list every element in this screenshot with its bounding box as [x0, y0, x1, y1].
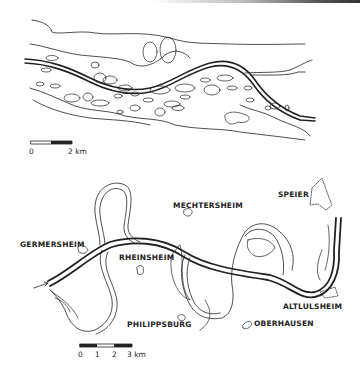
- place-label-oberhausen: OBERHAUSEN: [254, 319, 314, 328]
- place-label-germersheim: GERMERSHEIM: [20, 240, 85, 249]
- tributary-east: [245, 60, 312, 73]
- place-label-mechtersheim: MECHTERSHEIM: [173, 201, 243, 210]
- valley-boundary-north: [32, 20, 305, 44]
- meander-loop-2: [50, 250, 112, 331]
- meander-loop-1: [95, 183, 140, 245]
- bottom-scale-tick-0: 0: [78, 350, 83, 359]
- bottom-scale-tick-1: 1: [95, 350, 100, 359]
- place-label-speier: SPEIER: [278, 190, 309, 199]
- top-scale-end-label: 2 km: [68, 147, 87, 156]
- meander-loop-3: [181, 224, 280, 319]
- top-scale-start-label: 0: [29, 147, 34, 156]
- bottom-scale-tick-2: 2: [112, 350, 117, 359]
- figure-canvas: [0, 0, 360, 372]
- top-map: [25, 20, 315, 144]
- valley-boundary-south: [30, 88, 305, 140]
- bottom-scale-tick-3: 3 km: [127, 350, 146, 359]
- place-label-rheinsheim: RHEINSHEIM: [119, 253, 174, 262]
- town-oberhausen: [243, 321, 252, 328]
- main-channel-south-bank: [25, 63, 315, 121]
- top-scale-bar: [31, 141, 72, 144]
- place-label-altlulsheim: ALTLULSHEIM: [283, 302, 342, 311]
- town-speier: [310, 178, 332, 210]
- town-rheinsheim: [137, 266, 144, 275]
- main-channel-north-bank: [25, 59, 315, 118]
- place-label-philippsburg: PHILIPPSBURG: [127, 320, 192, 329]
- bottom-scale-bar: [80, 344, 132, 347]
